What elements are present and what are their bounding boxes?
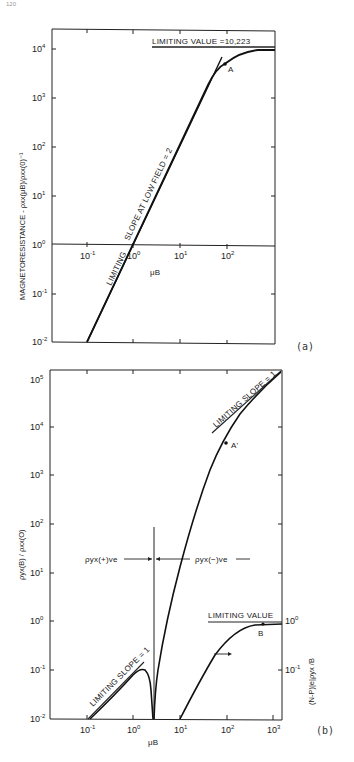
ticks-b — [50, 370, 282, 720]
arrowhead-left — [156, 557, 160, 561]
point-b-label: B — [258, 629, 264, 638]
svg-text:100: 100 — [285, 615, 299, 626]
y-tick-labels-a: 104 103 102 101 100 10-1 10-2 — [32, 43, 48, 347]
svg-text:100: 100 — [30, 615, 44, 626]
y2-axis-title-b: (N-P)|e|ρyx /B — [307, 658, 316, 705]
svg-text:10-1: 10-1 — [285, 664, 301, 675]
point-a-label: A — [228, 65, 234, 74]
limiting-value-label-b: LIMITING VALUE — [208, 611, 273, 620]
svg-text:104: 104 — [32, 43, 46, 54]
negative-region-label: ρyx(−)ve — [195, 555, 228, 564]
arrowhead-right-indicator — [228, 652, 232, 656]
svg-text:102: 102 — [221, 724, 235, 735]
svg-text:105: 105 — [30, 374, 44, 385]
svg-text:101: 101 — [30, 567, 44, 578]
slope-low-label: LIMITING SLOPE = 1 — [88, 645, 152, 709]
point-a-prime-label: A' — [231, 441, 239, 450]
svg-text:103: 103 — [267, 724, 281, 735]
svg-text:10-1: 10-1 — [32, 288, 48, 299]
svg-text:10-1: 10-1 — [80, 250, 96, 261]
slope-high-label: LIMITING SLOPE = 1 — [211, 369, 278, 429]
svg-text:10-2: 10-2 — [30, 713, 46, 724]
svg-text:10-1: 10-1 — [30, 664, 46, 675]
y-tick-labels-b: 105 104 103 102 101 100 10-1 10-2 — [30, 374, 46, 724]
svg-text:101: 101 — [174, 250, 188, 261]
positive-region-label: ρyx(+)ve — [85, 555, 118, 564]
panel-a: 104 103 102 101 100 10-1 10-2 10-1 100 1… — [18, 29, 314, 352]
svg-text:101: 101 — [174, 724, 188, 735]
svg-text:100: 100 — [32, 239, 46, 250]
y-axis-title-a: MAGNETORESISTANCE - ρxx(μB)/ρxx(0)⁻¹ — [18, 152, 27, 300]
axis-bottom-b — [50, 719, 282, 720]
panel-label-a: (a) — [296, 341, 314, 352]
y2-tick-labels-b: 100 10-1 — [285, 615, 301, 675]
hall-coefficient-curve — [180, 624, 282, 719]
y-axis-title-b: ρyx(B) / ρxx(O) — [17, 529, 26, 580]
slope-1-low-asymptote — [88, 662, 144, 719]
svg-text:102: 102 — [30, 518, 44, 529]
x-axis-title-b: μB — [148, 738, 158, 747]
point-a-prime-marker — [224, 441, 228, 445]
point-a-marker — [223, 62, 227, 66]
axis-top — [52, 29, 275, 31]
limiting-value-label-a: LIMITING VALUE =10,223 — [152, 37, 251, 46]
svg-text:101: 101 — [32, 190, 46, 201]
svg-text:10-2: 10-2 — [32, 336, 48, 347]
page-number: 120 — [6, 1, 17, 7]
svg-text:103: 103 — [32, 92, 46, 103]
point-b-marker — [261, 622, 264, 625]
x-tick-labels-b: 10-1 100 101 102 103 — [80, 724, 281, 735]
panel-b: 105 104 103 102 101 100 10-1 10-2 100 10… — [17, 369, 334, 747]
svg-text:102: 102 — [32, 141, 46, 152]
svg-text:102: 102 — [221, 250, 235, 261]
magnetoresistance-curve — [87, 50, 275, 342]
svg-text:10-1: 10-1 — [80, 724, 96, 735]
svg-text:100: 100 — [127, 724, 141, 735]
arrowhead-right — [148, 557, 152, 561]
slope-annotation-a-part2: SLOPE AT LOW FIELD = 2 — [123, 146, 175, 242]
x-tick-labels-a: 10-1 100 101 102 — [80, 250, 235, 261]
figure-canvas: 120 — [0, 0, 354, 762]
unity-line — [52, 244, 275, 246]
x-axis-title-a: μB — [150, 268, 160, 277]
panel-label-b: (b) — [316, 725, 334, 736]
svg-text:103: 103 — [30, 469, 44, 480]
axis-bottom — [52, 342, 275, 344]
y-ticks-a — [52, 29, 275, 344]
svg-text:104: 104 — [30, 421, 44, 432]
